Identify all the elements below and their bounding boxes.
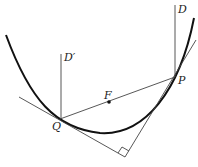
- parabola-curve: [6, 18, 194, 133]
- label-D: D: [177, 3, 187, 16]
- right-angle-marker: [118, 147, 129, 153]
- label-D-prime: D′: [63, 51, 76, 64]
- parabola-focal-chord-diagram: D D′ P F Q: [0, 0, 198, 167]
- tangent-at-Q: [19, 97, 125, 157]
- tangent-at-P: [125, 40, 196, 157]
- label-F: F: [103, 89, 112, 102]
- label-Q: Q: [52, 120, 61, 133]
- focal-chord-QP: [60, 77, 175, 119]
- label-P: P: [177, 74, 186, 87]
